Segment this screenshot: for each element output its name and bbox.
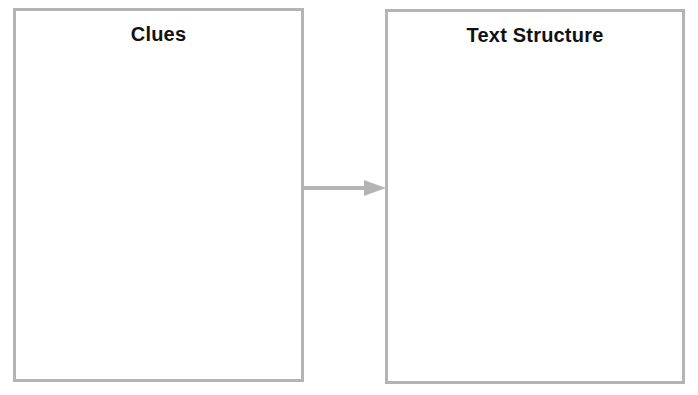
arrow-right-icon <box>304 179 386 197</box>
clues-box: Clues <box>13 8 304 382</box>
text-structure-box: Text Structure <box>385 9 685 384</box>
text-structure-title: Text Structure <box>388 24 682 47</box>
clues-title: Clues <box>16 23 301 46</box>
